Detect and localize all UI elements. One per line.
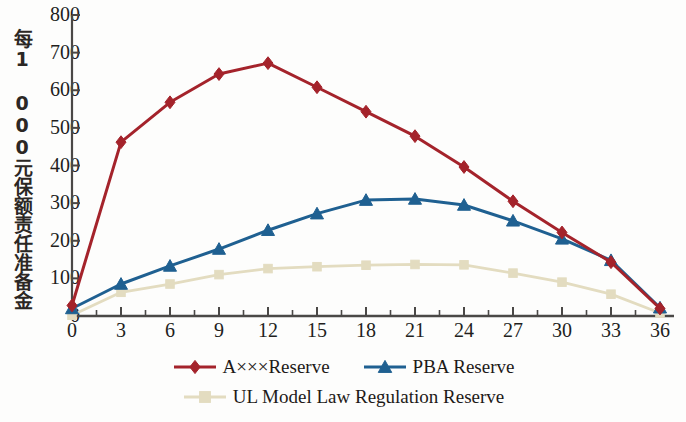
x-axis-tick-label: 12 <box>248 318 288 342</box>
x-axis-tick-label: 36 <box>640 318 680 342</box>
data-point <box>509 269 518 278</box>
data-point <box>361 105 371 118</box>
x-axis-tick-label: 21 <box>395 318 435 342</box>
legend-row: A×××ReservePBA Reserve <box>0 352 686 382</box>
data-point <box>313 262 322 271</box>
x-axis-tick-label: 33 <box>591 318 631 342</box>
legend-swatch-diamond-icon <box>172 357 218 377</box>
legend-swatch-square-icon <box>182 387 228 407</box>
data-point <box>508 195 518 208</box>
data-point <box>263 57 273 70</box>
x-axis-tick-label: 3 <box>101 318 141 342</box>
y-axis-ticks <box>72 15 80 316</box>
data-point <box>362 261 371 270</box>
x-axis-tick-label: 15 <box>297 318 337 342</box>
x-axis-tick-label: 27 <box>493 318 533 342</box>
x-axis-tick-label: 9 <box>199 318 239 342</box>
data-point <box>264 264 273 273</box>
data-series-layer <box>65 57 666 320</box>
axis-lines <box>72 15 674 316</box>
data-point <box>558 278 567 287</box>
data-point <box>410 130 420 143</box>
data-point <box>214 68 224 81</box>
series-1 <box>67 57 665 315</box>
data-point <box>312 81 322 94</box>
x-axis-tick-label: 30 <box>542 318 582 342</box>
x-axis-tick-label: 0 <box>52 318 92 342</box>
data-point <box>215 270 224 279</box>
x-axis-tick-label: 24 <box>444 318 484 342</box>
x-axis-tick-label: 6 <box>150 318 190 342</box>
data-point <box>460 261 469 270</box>
legend-item[interactable]: A×××Reserve <box>172 356 330 378</box>
legend-item-label: A×××Reserve <box>223 356 330 378</box>
data-point <box>607 290 616 299</box>
data-point <box>459 161 469 174</box>
x-axis-ticks <box>72 307 660 316</box>
legend-swatch-triangle-icon <box>362 357 408 377</box>
line-chart: 每1 000元保额责任准备金 0100200300400500600700800… <box>0 0 686 422</box>
data-point <box>166 280 175 289</box>
x-axis-tick-label: 18 <box>346 318 386 342</box>
legend-item[interactable]: UL Model Law Regulation Reserve <box>182 386 505 408</box>
legend-item[interactable]: PBA Reserve <box>362 356 515 378</box>
legend-item-label: UL Model Law Regulation Reserve <box>233 386 505 408</box>
series-2 <box>65 193 666 314</box>
legend-row: UL Model Law Regulation Reserve <box>0 382 686 412</box>
legend-item-label: PBA Reserve <box>413 356 515 378</box>
x-axis-tick-labels: 0369121518212427303336 <box>0 318 686 348</box>
chart-legend: A×××ReservePBA Reserve UL Model Law Regu… <box>0 352 686 418</box>
data-point <box>411 260 420 269</box>
